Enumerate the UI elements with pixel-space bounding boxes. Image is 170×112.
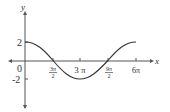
y-axis-arrow-down: [23, 105, 27, 109]
x-axis-arrow-left: [8, 59, 12, 63]
x-tick-label-3-den: 2: [108, 73, 111, 79]
origin-label: 0: [17, 63, 22, 74]
x-tick-label-3-num: 9π: [106, 66, 112, 72]
x-axis-label: x: [154, 56, 159, 66]
x-tick-label-1-num: 3π: [50, 66, 56, 72]
y-tick-label-pos: 2: [17, 37, 22, 48]
x-tick-label-1-den: 2: [52, 73, 55, 79]
y-tick-label-neg: -2: [12, 74, 20, 85]
x-tick-label-2: 3 π: [74, 65, 86, 75]
x-tick-label-4: 6π: [132, 66, 140, 75]
cosine-chart: y x 0 2 -2 3π 2 3 π 9π 2 6π: [0, 0, 170, 112]
y-axis-label: y: [20, 2, 25, 12]
x-axis-arrow-right: [150, 59, 154, 63]
